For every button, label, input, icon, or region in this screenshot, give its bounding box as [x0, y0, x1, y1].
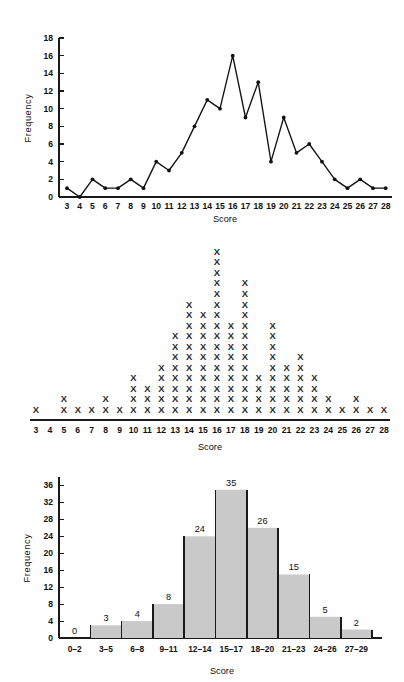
data-point: [256, 80, 260, 84]
x-mark: X: [186, 383, 193, 394]
x-mark: X: [242, 404, 249, 415]
x-tick-label: 6: [103, 201, 108, 211]
x-tick-label: 11: [143, 425, 152, 435]
x-mark: X: [242, 320, 249, 331]
x-tick-label: 11: [164, 201, 173, 211]
x-mark: X: [186, 393, 193, 404]
y-tick-label: 2: [48, 174, 53, 184]
data-point: [346, 186, 350, 190]
x-mark: X: [256, 393, 263, 404]
x-mark: X: [200, 341, 207, 352]
x-mark: X: [242, 372, 249, 383]
data-point: [65, 186, 69, 190]
dot-plot-chart: XXXXXXXXXXXXXXXXXXXXXXXXXXXXXXXXXXXXXXXX…: [0, 230, 404, 455]
x-category-label: 24–26: [313, 644, 337, 654]
x-tick-label: 23: [310, 425, 320, 435]
data-point: [91, 177, 95, 181]
bar: [309, 617, 340, 638]
frequency-polygon-chart: 024681012141618 345678910111213141516171…: [0, 0, 404, 230]
x-mark: X: [130, 383, 137, 394]
x-tick-label: 7: [89, 425, 94, 435]
x-mark: X: [186, 330, 193, 341]
y-tick-label: 4: [48, 157, 53, 167]
x-category-label: 18–20: [251, 644, 275, 654]
x-tick-label: 10: [129, 425, 139, 435]
x-tick-label: 3: [34, 425, 39, 435]
x-axis-category-labels: 0–23–56–89–1112–1415–1718–2021–2324–2627…: [68, 644, 369, 654]
x-tick-label: 13: [190, 201, 200, 211]
x-mark: X: [172, 372, 179, 383]
x-mark: X: [214, 330, 221, 341]
x-tick-label: 18: [253, 201, 263, 211]
x-mark: X: [297, 404, 304, 415]
dot-plot-svg: XXXXXXXXXXXXXXXXXXXXXXXXXXXXXXXXXXXXXXXX…: [0, 230, 404, 455]
x-axis-tick-labels: 3456789101112131415161718192021222324252…: [34, 425, 389, 435]
x-mark: X: [270, 393, 277, 404]
x-tick-label: 24: [330, 201, 340, 211]
bar: [247, 528, 278, 638]
data-point: [103, 186, 107, 190]
x-tick-label: 17: [226, 425, 236, 435]
x-mark: X: [158, 383, 165, 394]
x-mark: X: [367, 404, 374, 415]
x-mark: X: [214, 267, 221, 278]
bar-value-label: 4: [135, 609, 140, 619]
x-tick-label: 18: [240, 425, 250, 435]
x-mark: X: [200, 320, 207, 331]
bar: [153, 604, 184, 638]
x-category-label: 15–17: [220, 644, 244, 654]
y-tick-label: 0: [48, 633, 53, 643]
x-tick-label: 22: [296, 425, 306, 435]
bar-value-label: 5: [322, 605, 327, 615]
x-mark: X: [256, 372, 263, 383]
x-mark: X: [256, 383, 263, 394]
x-mark: X: [297, 362, 304, 373]
x-mark: X: [311, 393, 318, 404]
x-tick-label: 5: [90, 201, 95, 211]
x-tick-label: 22: [304, 201, 314, 211]
x-mark: X: [144, 404, 151, 415]
y-tick-label: 36: [43, 480, 53, 490]
x-mark: X: [186, 341, 193, 352]
y-axis-ticks: [59, 485, 64, 638]
y-tick-label: 6: [48, 139, 53, 149]
x-tick-label: 7: [116, 201, 121, 211]
y-tick-label: 24: [43, 531, 53, 541]
x-mark: X: [200, 372, 207, 383]
bar: [216, 490, 247, 638]
bar: [278, 574, 309, 638]
x-mark: X: [256, 404, 263, 415]
x-mark: X: [242, 393, 249, 404]
y-axis-title: Frequency: [22, 534, 32, 583]
x-mark: X: [214, 341, 221, 352]
x-tick-label: 15: [215, 201, 225, 211]
bar-value-label: 3: [103, 613, 108, 623]
x-tick-label: 21: [292, 201, 302, 211]
bar-value-label: 2: [354, 618, 359, 628]
x-mark: X: [214, 309, 221, 320]
x-mark: X: [311, 383, 318, 394]
x-mark: X: [228, 341, 235, 352]
x-mark: X: [242, 330, 249, 341]
y-tick-label: 28: [43, 514, 53, 524]
x-mark: X: [325, 404, 332, 415]
data-point: [358, 177, 362, 181]
x-mark: X: [214, 383, 221, 394]
bar: [122, 621, 153, 638]
data-point: [231, 54, 235, 58]
x-mark: X: [214, 351, 221, 362]
data-point: [218, 107, 222, 111]
x-mark: X: [270, 330, 277, 341]
x-mark: X: [228, 320, 235, 331]
x-mark: X: [353, 393, 360, 404]
x-mark: X: [270, 372, 277, 383]
x-tick-label: 14: [184, 425, 194, 435]
x-mark: X: [144, 393, 151, 404]
x-axis-title: Score: [210, 666, 234, 676]
x-mark: X: [172, 351, 179, 362]
data-point: [307, 142, 311, 146]
x-mark: X: [311, 404, 318, 415]
x-mark: X: [214, 404, 221, 415]
data-point: [193, 124, 197, 128]
x-tick-label: 26: [355, 201, 365, 211]
